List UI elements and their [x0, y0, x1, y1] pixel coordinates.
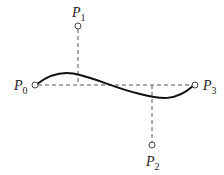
point-p2 [149, 142, 155, 148]
point-p0 [32, 82, 38, 88]
point-p1 [75, 23, 81, 29]
label-p1: P1 [71, 5, 86, 23]
label-p3: P3 [202, 78, 217, 96]
label-p2: P2 [145, 154, 160, 172]
bezier-diagram: P0 P1 P2 P3 [0, 0, 224, 175]
label-p0: P0 [13, 78, 28, 96]
point-p3 [192, 82, 198, 88]
